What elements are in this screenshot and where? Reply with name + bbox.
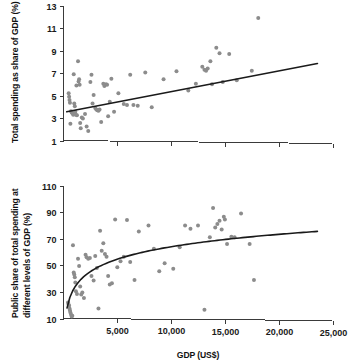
data-point: [131, 103, 135, 107]
top-x-axis-line: [64, 141, 333, 144]
data-point: [91, 101, 95, 105]
data-point: [68, 101, 72, 105]
data-point: [223, 217, 227, 221]
data-point: [183, 223, 187, 227]
top-y-tick-group: 135791113: [46, 2, 63, 147]
data-point: [75, 292, 79, 296]
top-panel-axes: [64, 6, 333, 144]
data-point: [73, 275, 77, 279]
data-point: [92, 279, 96, 283]
data-point: [76, 59, 80, 63]
data-point: [163, 261, 167, 265]
data-point: [98, 108, 102, 112]
data-point: [75, 113, 79, 117]
data-point: [67, 91, 71, 95]
data-point: [78, 285, 82, 289]
data-point: [174, 69, 178, 73]
two-panel-scatter-chart: 135791113 Total spending as share of GDP…: [0, 0, 349, 364]
y-tick-label: 50: [46, 261, 56, 271]
data-point: [248, 242, 252, 246]
top-y-axis-title: Total spending as share of GDP (%): [10, 1, 20, 143]
data-point: [252, 278, 256, 282]
data-point: [136, 104, 140, 108]
data-point: [82, 296, 86, 300]
data-point: [78, 121, 82, 125]
data-point: [67, 95, 71, 99]
data-point: [80, 291, 84, 295]
y-tick-label: 70: [46, 235, 56, 245]
data-point: [86, 129, 90, 133]
y-tick-label: 7: [51, 69, 56, 79]
data-point: [239, 211, 243, 215]
data-point: [85, 124, 89, 128]
data-point: [83, 112, 87, 116]
data-point: [93, 254, 97, 258]
data-point: [96, 307, 100, 311]
bottom-x-tick-group: 5,00010,00015,00020,00025,000: [106, 319, 347, 338]
bottom-x-axis-title: GDP (US$): [177, 350, 220, 360]
y-tick-label: 5: [51, 92, 56, 102]
y-tick-label: 10: [46, 315, 56, 325]
data-point: [225, 242, 229, 246]
bottom-y-axis-title-line2: different levels of GDP (%): [22, 213, 32, 318]
data-point: [214, 46, 218, 50]
data-point: [106, 114, 110, 118]
data-point: [218, 219, 222, 223]
data-point: [227, 52, 231, 56]
data-point: [194, 82, 198, 86]
top-panel: 135791113 Total spending as share of GDP…: [10, 1, 334, 148]
data-point: [105, 255, 109, 259]
data-point: [171, 267, 175, 271]
data-point: [202, 308, 206, 312]
data-point: [208, 235, 212, 239]
data-point: [211, 206, 215, 210]
data-point: [71, 243, 75, 247]
top-scatter-points: [67, 16, 261, 133]
data-point: [112, 110, 116, 114]
data-point: [116, 91, 120, 95]
data-point: [77, 264, 81, 268]
y-tick-label: 11: [47, 24, 57, 34]
data-point: [109, 77, 113, 81]
data-point: [98, 229, 102, 233]
data-point: [147, 223, 151, 227]
data-point: [79, 126, 83, 130]
data-point: [128, 73, 132, 77]
data-point: [256, 16, 260, 20]
data-point: [119, 259, 123, 263]
data-point: [76, 257, 80, 261]
data-point: [72, 72, 76, 76]
data-point: [70, 314, 74, 318]
bottom-y-axis-title-line1: Public share of total spending at: [10, 188, 20, 318]
data-point: [215, 222, 219, 226]
y-tick-label: 90: [46, 208, 56, 218]
data-point: [125, 218, 129, 222]
data-point: [125, 103, 129, 107]
data-point: [218, 51, 222, 55]
x-tick-label: 15,000: [212, 327, 240, 337]
data-point: [196, 223, 200, 227]
y-tick-label: 30: [46, 288, 56, 298]
data-point: [220, 227, 224, 231]
data-point: [115, 265, 119, 269]
data-point: [206, 67, 210, 71]
data-point: [78, 83, 82, 87]
data-point: [157, 269, 161, 273]
data-point: [113, 217, 117, 221]
data-point: [208, 59, 212, 63]
x-tick-label: 25,000: [320, 328, 348, 338]
y-tick-label: 110: [42, 182, 57, 192]
bottom-scatter-points: [66, 206, 256, 318]
data-point: [81, 117, 85, 121]
x-tick-label: 10,000: [158, 326, 186, 336]
data-point: [68, 122, 72, 126]
figure-container: 135791113 Total spending as share of GDP…: [0, 0, 349, 364]
data-point: [133, 278, 137, 282]
bottom-panel: 1030507090110 5,00010,00015,00020,00025,…: [10, 182, 347, 360]
data-point: [162, 77, 166, 81]
data-point: [128, 260, 132, 264]
y-tick-label: 13: [46, 2, 56, 12]
data-point: [73, 104, 77, 108]
data-point: [88, 256, 92, 260]
data-point: [89, 73, 93, 77]
